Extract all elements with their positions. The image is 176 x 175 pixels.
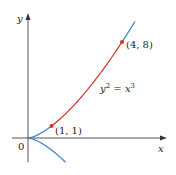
cusp-plot: y x 0 (1, 1) (4, 8) y2 = x3 [0,0,176,175]
point-4-8 [120,40,124,44]
equation-label: y2 = x3 [99,82,135,94]
y-axis-arrow-icon [26,13,31,20]
curve-upper-branch-start [28,126,52,138]
x-axis-label: x [158,143,164,154]
point-4-8-label: (4, 8) [126,39,153,50]
curve-lower-branch [28,138,66,162]
point-1-1 [50,124,54,128]
point-1-1-label: (1, 1) [55,125,82,136]
origin-label: 0 [18,141,24,152]
chart-root: y x 0 (1, 1) (4, 8) y2 = x3 [0,0,176,175]
y-axis-label: y [16,13,23,24]
x-axis-arrow-icon [160,136,167,141]
